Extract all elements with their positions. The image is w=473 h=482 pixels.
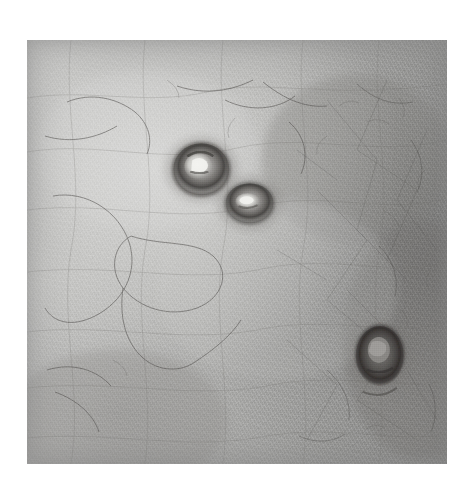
dermatology-photograph — [27, 40, 447, 464]
screenshot-canvas — [0, 0, 473, 482]
photo-vignette — [27, 40, 447, 464]
